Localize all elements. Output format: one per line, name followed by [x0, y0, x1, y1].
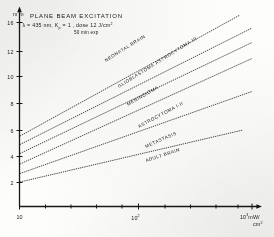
y-tick-labels: 16 12 10 8 6 4 2 m m — [7, 11, 24, 186]
x-axis-end-denominator: cm2 — [253, 221, 263, 227]
y-tick-label-6: 6 — [10, 128, 13, 134]
x-tick-labels: 10 102 103mW/ cm2 — [16, 213, 262, 227]
y-tick-label-12: 12 — [7, 49, 13, 55]
series-label-meningioma: MENINGIOMA — [126, 85, 160, 107]
y-tick-label-4: 4 — [10, 154, 13, 160]
x-axis — [20, 204, 263, 210]
y-tick-label-10: 10 — [7, 74, 13, 80]
series-label-neonatal-brain: NEONATAL BRAIN — [104, 34, 146, 63]
y-tick-label-8: 8 — [10, 101, 13, 107]
series-line-metastasis — [20, 92, 252, 174]
chart-canvas: 16 12 10 8 6 4 2 m m 10 102 103mW/ cm2 P… — [0, 0, 274, 237]
y-tick-label-16: 16 — [7, 20, 13, 26]
figure-root: 16 12 10 8 6 4 2 m m 10 102 103mW/ cm2 P… — [0, 0, 274, 237]
x-axis-end-label: 103mW/ — [240, 213, 260, 220]
series-label-adult-brain: ADULT BRAIN — [145, 147, 181, 163]
y-tick-label-2: 2 — [10, 180, 13, 186]
title-block: PLANE BEAM EXCITATION λ = 435 nm, Kp = 1… — [23, 13, 123, 36]
series-line-adult-brain — [20, 130, 243, 182]
series-label-astrocytoma-i-ii: ASTROCYTOMA I-II — [137, 101, 184, 129]
figure-subtitle-exposure: 50 min exp — [74, 30, 99, 35]
y-axis-unit-label: m m — [13, 11, 24, 17]
x-tick-label-10: 10 — [16, 214, 22, 220]
y-axis — [17, 7, 23, 207]
x-tick-label-100: 102 — [131, 214, 139, 221]
figure-title: PLANE BEAM EXCITATION — [30, 13, 123, 19]
figure-subtitle-params: λ = 435 nm, Kp = 1 , dose 12 J/cm2 — [23, 22, 113, 30]
series-line-glioblastoma-astrocytoma-iii — [20, 28, 252, 145]
x-axis-arrow — [256, 204, 262, 209]
